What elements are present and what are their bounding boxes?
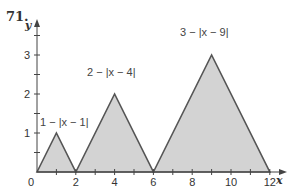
function-label-1: 1 − |x − 1| <box>40 116 89 128</box>
x-tick-label: 0 <box>28 176 34 188</box>
x-tick-label: 2 <box>73 176 79 188</box>
y-axis-label: y <box>24 19 33 32</box>
y-tick-label: 2 <box>24 88 30 100</box>
function-label-3: 3 − |x − 9| <box>180 26 229 38</box>
chart: 024681012123xy1 − |x − 1|2 − |x − 4|3 − … <box>0 0 298 188</box>
y-tick-label: 1 <box>24 127 30 139</box>
triangle-region-2 <box>76 94 154 172</box>
function-label-2: 2 − |x − 4| <box>87 66 136 78</box>
triangle-region-1 <box>37 133 76 172</box>
x-tick-label: 8 <box>189 176 195 188</box>
x-tick-label: 10 <box>225 176 237 188</box>
y-axis-arrow-icon <box>34 19 40 27</box>
triangle-region-3 <box>153 55 269 172</box>
y-tick-label: 3 <box>24 49 30 61</box>
x-tick-label: 6 <box>150 176 156 188</box>
x-axis-label: x <box>275 174 283 187</box>
x-tick-label: 4 <box>112 176 118 188</box>
x-tick-label: 12 <box>264 176 276 188</box>
